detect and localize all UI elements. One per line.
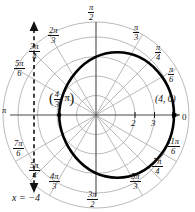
radial-tick-label-3: 3 <box>151 119 156 128</box>
spoke-225 <box>30 115 96 181</box>
two-pi-over-3-denominator: 3 <box>48 36 59 45</box>
polar-conic-figure: π 2 π 3 π 4 π 6 2π 3 3π 4 <box>0 0 195 212</box>
angle-label-pi-over-2: π 2 <box>88 3 94 21</box>
seven-pi-over-4-denominator: 4 <box>152 167 163 176</box>
four-pi-over-3-denominator: 3 <box>49 182 60 191</box>
radial-tick-label-2: 2 <box>131 119 136 128</box>
point-label-4-0: (4, 0) <box>155 95 176 105</box>
angle-label-seven-pi-over-6: 7π 6 <box>13 139 24 157</box>
spoke-30 <box>96 69 177 116</box>
pi-over-4-denominator: 4 <box>155 53 161 62</box>
pi-over-3-denominator: 3 <box>133 33 139 42</box>
directrix-label: x = −4 <box>12 193 40 203</box>
polar-plot-canvas <box>0 0 195 212</box>
directrix-arrow-up-icon <box>30 21 39 31</box>
five-pi-over-6-denominator: 6 <box>14 69 25 78</box>
angle-label-five-pi-over-4: 5π 4 <box>29 161 40 179</box>
angle-label-seven-pi-over-4: 7π 4 <box>152 157 163 175</box>
point-marker-4-0 <box>172 113 176 117</box>
angle-label-five-pi-over-6: 5π 6 <box>14 59 25 77</box>
angle-label-three-pi-over-4: 3π 4 <box>29 42 40 60</box>
pi-over-2-denominator: 2 <box>88 13 94 22</box>
seven-pi-over-6-denominator: 6 <box>13 149 24 158</box>
point-marker-4-3-pi <box>57 113 61 117</box>
angle-label-pi-over-3: π 3 <box>133 23 139 41</box>
spoke-210 <box>15 115 96 162</box>
three-pi-over-4-denominator: 4 <box>29 52 40 61</box>
spoke-45 <box>96 49 162 115</box>
angle-label-three-pi-over-2: 3π 2 <box>87 190 98 208</box>
spoke-330 <box>96 115 177 162</box>
angle-label-pi: π <box>2 106 6 115</box>
spoke-60 <box>96 34 143 115</box>
angle-label-zero: 0 <box>182 113 187 122</box>
angle-label-two-pi-over-3: 2π 3 <box>48 26 59 44</box>
pi-over-6-denominator: 6 <box>168 75 174 84</box>
point-label-4-3-pi: (43, π) <box>49 90 74 108</box>
five-pi-over-3-denominator: 3 <box>130 182 141 191</box>
eleven-pi-over-6-denominator: 6 <box>166 147 180 156</box>
three-pi-over-2-denominator: 2 <box>87 200 98 209</box>
five-pi-over-4-denominator: 4 <box>29 171 40 180</box>
angle-label-pi-over-4: π 4 <box>155 43 161 61</box>
angle-label-pi-over-6: π 6 <box>168 65 174 83</box>
angle-label-four-pi-over-3: 4π 3 <box>49 172 60 190</box>
point-label-close-paren: ) <box>69 91 74 106</box>
angle-label-five-pi-over-3: 5π 3 <box>130 172 141 190</box>
angle-label-eleven-pi-over-6: 11π 6 <box>166 137 180 155</box>
